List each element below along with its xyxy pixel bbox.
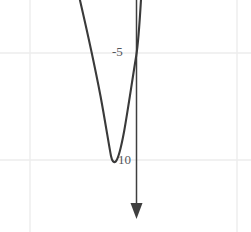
y-axis-tick-label-10: 10 (118, 153, 131, 166)
graph-svg-canvas (0, 0, 251, 232)
axis-layer (131, 0, 143, 219)
y-axis-arrowhead-icon (131, 203, 143, 219)
parabola-graph-figure: -5 10 (0, 0, 251, 232)
parabola-curve (79, 0, 141, 162)
curve-layer (79, 0, 141, 162)
y-axis-tick-label-neg5: -5 (112, 45, 123, 58)
grid-layer (0, 0, 251, 232)
